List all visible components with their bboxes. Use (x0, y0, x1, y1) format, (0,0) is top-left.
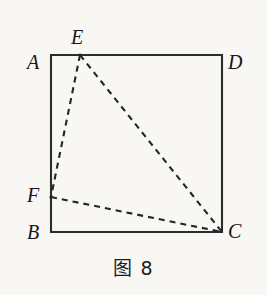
figure-container: A D B C E F 图 8 (0, 0, 267, 295)
vertex-label-d: D (228, 52, 242, 72)
vertex-point-e (78, 53, 81, 56)
vertex-label-b: B (27, 222, 39, 242)
geometry-canvas (0, 0, 267, 295)
dashed-segment-fc (51, 197, 222, 232)
dashed-segment-ec (80, 55, 222, 232)
vertex-label-a: A (27, 52, 39, 72)
vertex-label-e: E (71, 27, 83, 47)
dashed-segment-ef (51, 55, 80, 197)
figure-caption: 图 8 (0, 258, 267, 279)
vertex-label-f: F (27, 185, 39, 205)
vertex-label-c: C (228, 221, 241, 241)
square-abcd (51, 55, 222, 232)
vertex-point-f (49, 195, 52, 198)
